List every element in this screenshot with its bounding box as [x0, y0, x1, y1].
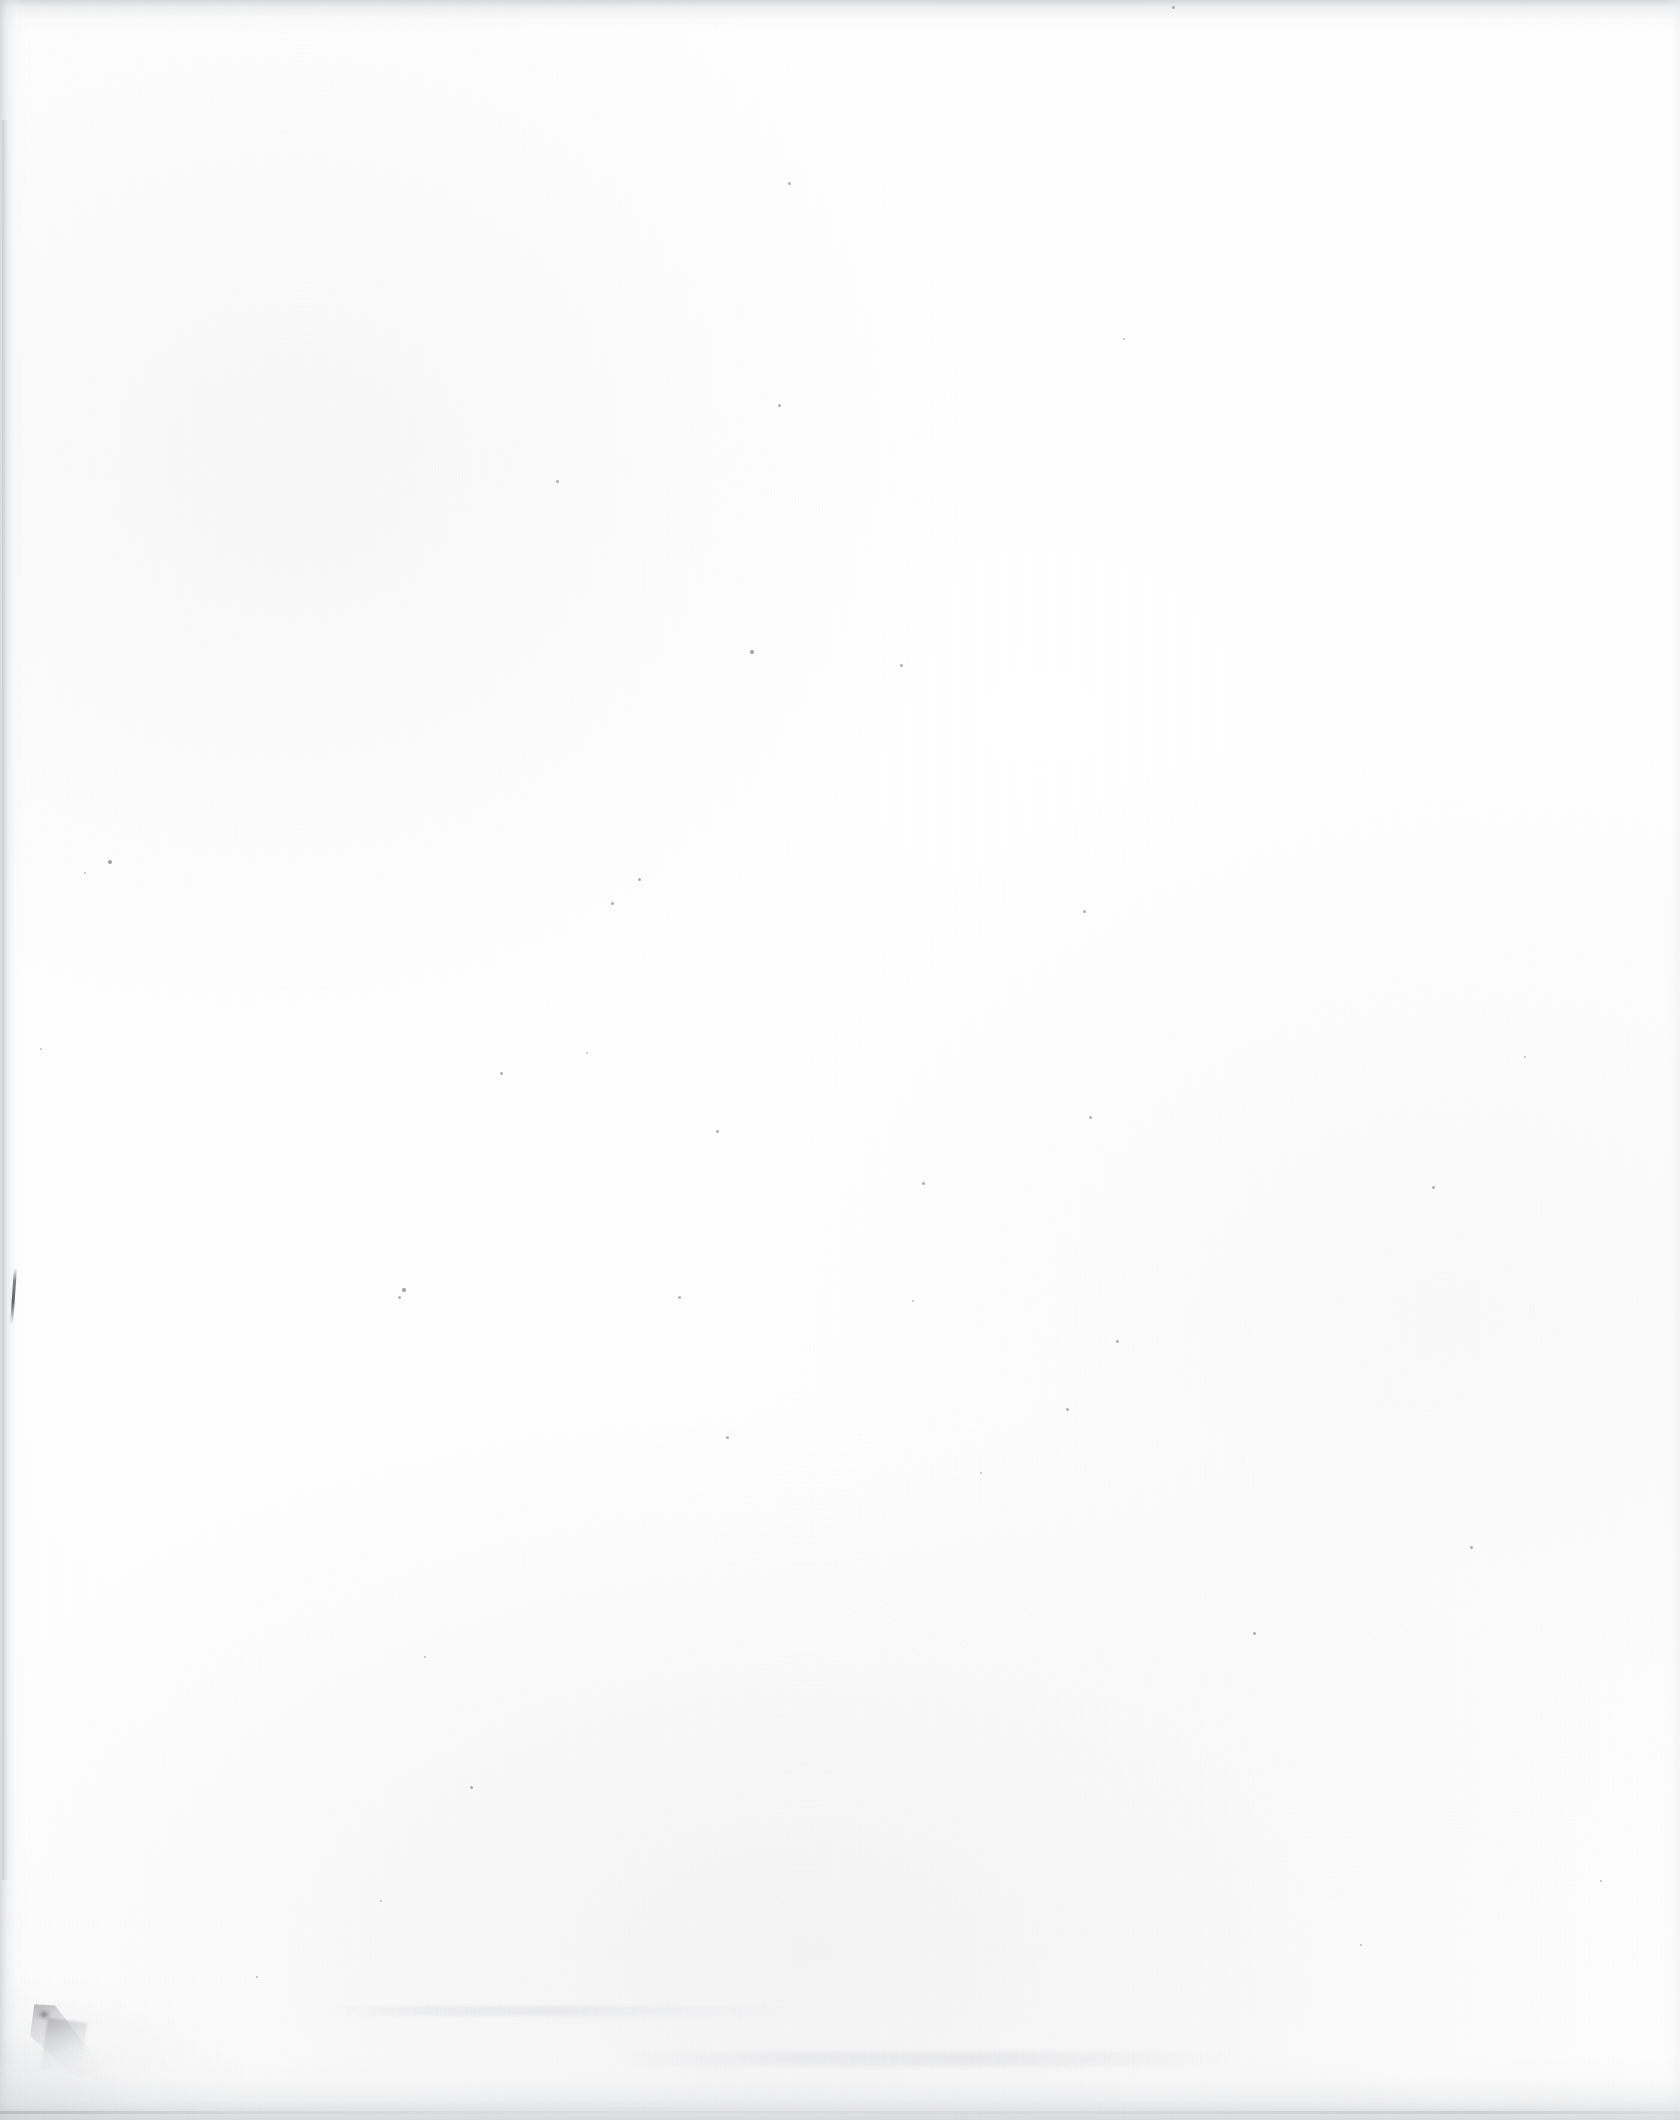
dust-speck: [84, 872, 86, 874]
dust-speck: [778, 404, 781, 407]
dust-speck: [788, 182, 791, 185]
dust-speck: [556, 480, 559, 483]
scanned-page: Blank page: [0, 0, 1680, 2120]
dust-speck: [611, 902, 614, 905]
dust-speck: [912, 1300, 914, 1302]
dust-speck: [716, 1130, 719, 1133]
bottom-streak-mark-2: [620, 2052, 1240, 2066]
dust-speck: [1116, 1340, 1119, 1343]
dust-speck: [256, 1976, 258, 1978]
bottom-edge-dirt-line: [0, 2111, 1680, 2114]
dust-speck: [1360, 1944, 1362, 1946]
dust-speck: [1123, 338, 1125, 340]
dust-speck: [586, 1052, 588, 1054]
dust-speck: [1066, 1408, 1069, 1411]
dust-speck: [1470, 1546, 1473, 1549]
dust-speck: [1083, 910, 1086, 913]
bottom-left-smudge-core: [36, 2008, 52, 2021]
dust-speck: [1253, 1632, 1256, 1635]
dust-speck: [900, 664, 903, 667]
dust-speck: [750, 650, 754, 654]
bottom-left-smudge-tail: [41, 2017, 88, 2074]
top-edge-shadow: [0, 0, 1680, 34]
dust-speck: [678, 1296, 681, 1299]
dust-speck: [500, 1072, 503, 1075]
dust-speck: [380, 1900, 382, 1902]
dust-speck: [398, 1296, 401, 1299]
dust-speck: [108, 860, 112, 864]
right-edge-shadow: [1664, 0, 1680, 2120]
dust-speck: [424, 1656, 426, 1658]
paper-tonal-wash: [0, 0, 1680, 2120]
dust-speck: [1432, 1186, 1435, 1189]
dust-speck: [1089, 1116, 1092, 1119]
bottom-streak-mark-1: [330, 2006, 790, 2016]
dust-speck: [922, 1182, 925, 1185]
dust-speck: [1524, 1056, 1526, 1058]
dust-speck: [1600, 1880, 1602, 1882]
left-edge-inner-shadow: [2, 120, 11, 1880]
dust-speck: [980, 1472, 982, 1474]
dust-speck: [40, 1048, 42, 1050]
dust-speck: [470, 1786, 473, 1789]
dust-speck: [726, 1436, 729, 1439]
dust-speck: [638, 878, 641, 881]
dust-speck: [402, 1288, 406, 1292]
dust-speck: [1172, 6, 1175, 9]
